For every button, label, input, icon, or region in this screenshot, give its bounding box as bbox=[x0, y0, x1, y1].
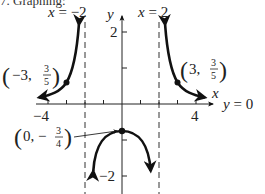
svg-text:(: ( bbox=[14, 124, 22, 150]
svg-text:0, −: 0, − bbox=[23, 128, 46, 144]
tick-label-y-neg2: −2 bbox=[99, 168, 115, 184]
svg-text:3: 3 bbox=[211, 57, 216, 68]
label-x-axis: x bbox=[211, 85, 219, 101]
svg-text:3,: 3, bbox=[189, 61, 200, 77]
svg-text:3: 3 bbox=[56, 125, 61, 136]
svg-text:5: 5 bbox=[211, 70, 216, 81]
label-asymptote-right: x = 2 bbox=[137, 4, 168, 20]
svg-text:): ) bbox=[64, 124, 72, 150]
point-0-neg3-4 bbox=[119, 128, 125, 134]
svg-text:): ) bbox=[52, 63, 60, 89]
svg-text:(: ( bbox=[2, 63, 10, 89]
svg-text:−3,: −3, bbox=[12, 67, 32, 83]
function-graph: x = −2 y x = 2 2 −2 −4 4 x y = 0 ( −3, 3… bbox=[0, 0, 265, 194]
label-horizontal-asymptote: y = 0 bbox=[221, 96, 253, 112]
svg-text:): ) bbox=[219, 57, 227, 83]
svg-text:(: ( bbox=[180, 57, 188, 83]
label-asymptote-left: x = −2 bbox=[47, 4, 87, 20]
label-point-neg3: ( −3, 3 5 ) bbox=[2, 63, 60, 89]
label-point-3: ( 3, 3 5 ) bbox=[180, 57, 227, 83]
svg-text:4: 4 bbox=[56, 138, 61, 149]
label-y-axis: y bbox=[105, 6, 114, 22]
svg-text:5: 5 bbox=[44, 76, 49, 87]
tick-label-x-4: 4 bbox=[191, 108, 199, 124]
svg-text:3: 3 bbox=[44, 63, 49, 74]
point-neg3-3-5 bbox=[64, 79, 70, 85]
label-point-0: ( 0, − 3 4 ) bbox=[14, 124, 72, 150]
tick-label-y-2: 2 bbox=[110, 24, 118, 40]
tick-label-x-neg4: −4 bbox=[33, 108, 49, 124]
